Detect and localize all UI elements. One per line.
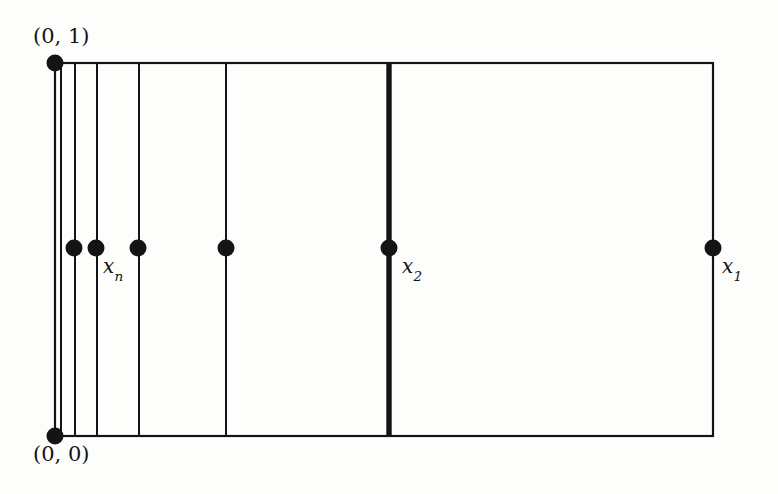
- label-x-2: x2: [402, 256, 422, 281]
- label-x-1-subscript: 1: [734, 268, 743, 284]
- marked-points: [47, 55, 722, 445]
- label-top-left-corner: (0, 1): [33, 26, 89, 47]
- label-x-n: xn: [103, 256, 123, 281]
- label-x-1: x1: [722, 256, 742, 281]
- corner-0-1: [47, 55, 64, 72]
- point-c: [218, 240, 235, 257]
- point-a: [66, 240, 83, 257]
- point-xn: [88, 240, 105, 257]
- point-b: [130, 240, 147, 257]
- label-x-2-subscript: 2: [414, 268, 423, 284]
- figure-container: (0, 1) (0, 0) xn x2 x1: [0, 0, 778, 494]
- label-bottom-left-corner: (0, 0): [33, 444, 89, 465]
- label-x-2-base: x: [402, 254, 413, 278]
- label-x-n-base: x: [103, 254, 114, 278]
- label-x-1-base: x: [722, 254, 733, 278]
- figure-canvas: [0, 0, 778, 494]
- point-x2: [381, 240, 398, 257]
- label-x-n-subscript: n: [115, 268, 124, 284]
- point-x1: [705, 240, 722, 257]
